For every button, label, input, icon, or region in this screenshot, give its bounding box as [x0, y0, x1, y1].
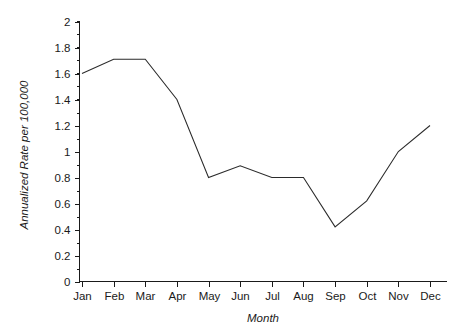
x-tick-label: Aug — [293, 290, 313, 302]
x-tick-label: Oct — [359, 290, 378, 302]
x-tick-label: Nov — [388, 290, 409, 302]
y-tick-label: 1 — [64, 146, 70, 158]
x-tick-label: Apr — [169, 290, 187, 302]
x-tick-label: Mar — [136, 290, 156, 302]
x-tick-label: Dec — [420, 290, 441, 302]
y-tick-label: 0 — [64, 276, 70, 288]
x-axis-tick-labels: JanFebMarAprMayJunJulAugSepOctNovDec — [73, 290, 441, 302]
data-series-line — [82, 59, 430, 227]
x-tick-label: Jun — [231, 290, 250, 302]
y-tick-label: 2 — [64, 16, 70, 28]
y-axis-tick-labels: 00.20.40.60.811.21.41.61.82 — [55, 16, 72, 288]
y-tick-label: 1.2 — [55, 120, 71, 132]
y-tick-label: 1.6 — [55, 68, 71, 80]
x-tick-label: Feb — [105, 290, 125, 302]
x-tick-label: Jul — [265, 290, 280, 302]
y-tick-label: 1.4 — [55, 94, 72, 106]
y-tick-label: 1.8 — [55, 42, 71, 54]
x-tick-label: Sep — [325, 290, 345, 302]
y-tick-label: 0.6 — [55, 198, 71, 210]
chart-canvas: 00.20.40.60.811.21.41.61.82 JanFebMarApr… — [0, 0, 458, 331]
y-tick-label: 0.2 — [55, 250, 71, 262]
x-tick-label: Jan — [73, 290, 92, 302]
x-tick-label: May — [199, 290, 221, 302]
x-axis-title: Month — [247, 312, 279, 324]
x-axis-major-ticks — [83, 282, 431, 287]
y-tick-label: 0.4 — [55, 224, 72, 236]
line-chart: 00.20.40.60.811.21.41.61.82 JanFebMarApr… — [0, 0, 458, 331]
y-axis-title: Annualized Rate per 100,000 — [18, 80, 30, 231]
y-tick-label: 0.8 — [55, 172, 71, 184]
